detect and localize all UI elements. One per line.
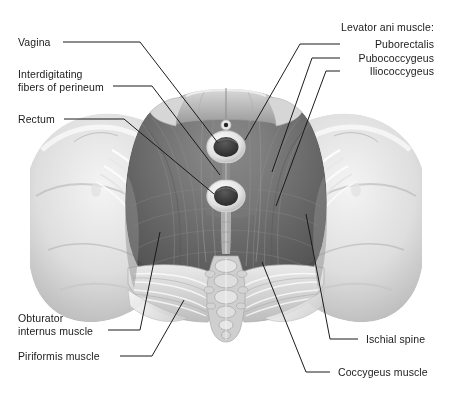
obturator-internus-muscle (125, 176, 327, 288)
hip-bone-right (261, 113, 422, 322)
label-iliococcygeus: Iliococcygeus (370, 65, 434, 78)
label-rectum: Rectum (18, 113, 55, 126)
vaginal-opening (207, 131, 245, 163)
urethral-opening (221, 120, 231, 130)
piriformis-muscle (128, 290, 324, 322)
label-obturator-1: Obturator (18, 312, 63, 325)
coccygeus-left (128, 265, 215, 322)
label-coccygeus: Coccygeus muscle (338, 366, 428, 379)
leader-iliococcygeus (276, 71, 340, 206)
label-ischial-spine: Ischial spine (366, 333, 425, 346)
leader-interdigitating (113, 86, 220, 175)
label-interdigitating-1: Interdigitating (18, 68, 83, 81)
levator-ani-sheet (125, 100, 327, 320)
leader-rectum (64, 119, 214, 194)
leader-puborectalis (245, 44, 340, 140)
perineal-body (220, 163, 232, 254)
leader-obturator (108, 232, 160, 330)
label-obturator-2: internus muscle (18, 325, 93, 338)
leader-pubococcygeus (272, 58, 340, 172)
sacrum-coccyx (204, 256, 248, 342)
label-interdigitating-2: fibers of perineum (18, 81, 104, 94)
label-puborectalis: Puborectalis (375, 38, 434, 51)
leader-coccygeus (262, 262, 330, 372)
label-levator-ani-heading: Levator ani muscle: (341, 21, 434, 34)
illustration-canvas: Vagina Interdigitating fibers of perineu… (0, 0, 451, 400)
pubic-symphysis (150, 88, 302, 126)
leader-ischial-spine (306, 214, 358, 339)
label-pubococcygeus: Pubococcygeus (359, 52, 434, 65)
leader-piriformis (120, 300, 184, 356)
hip-bone-left (30, 113, 191, 322)
anal-opening (207, 180, 245, 212)
coccygeus-right (237, 265, 324, 322)
label-vagina: Vagina (18, 36, 51, 49)
label-piriformis: Piriformis muscle (18, 350, 100, 363)
